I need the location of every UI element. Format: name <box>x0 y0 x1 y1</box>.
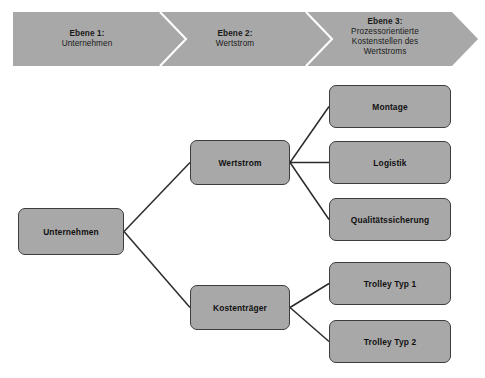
figure-canvas: Ebene 1: Unternehmen Ebene 2: Wertstrom … <box>0 0 485 378</box>
connector-kostentraeger-trolley2 <box>290 308 329 342</box>
connector-unternehmen-kostentraeger <box>124 232 190 308</box>
connector-kostentraeger-trolley1 <box>290 284 329 308</box>
node-unternehmen[interactable]: Unternehmen <box>18 208 124 255</box>
hierarchy-diagram: Unternehmen Wertstrom Kostenträger Monta… <box>0 0 485 378</box>
node-trolley-typ-2[interactable]: Trolley Typ 2 <box>329 320 451 363</box>
node-kostentraeger[interactable]: Kostenträger <box>190 285 290 330</box>
node-wertstrom[interactable]: Wertstrom <box>190 140 290 185</box>
connector-wertstrom-qualitaetssicherung <box>290 163 329 220</box>
connector-wertstrom-montage <box>290 107 329 163</box>
connector-unternehmen-wertstrom <box>124 163 190 232</box>
node-qualitaetssicherung[interactable]: Qualitätssicherung <box>329 198 451 241</box>
node-montage[interactable]: Montage <box>329 85 451 128</box>
node-logistik[interactable]: Logistik <box>329 141 451 184</box>
node-trolley-typ-1[interactable]: Trolley Typ 1 <box>329 262 451 305</box>
